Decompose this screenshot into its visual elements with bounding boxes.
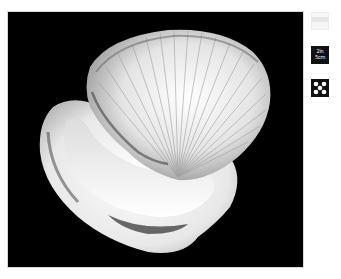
- product-image-viewer: 2in 5cm: [0, 0, 341, 279]
- white-background-icon: [312, 17, 328, 22]
- shell-image: [8, 12, 303, 267]
- main-product-image[interactable]: [8, 12, 303, 267]
- background-toggle-button[interactable]: [311, 12, 329, 30]
- scale-cm-label: 5cm: [311, 54, 329, 60]
- pattern-toggle-button[interactable]: [311, 79, 329, 97]
- dot-pattern-icon: [311, 79, 329, 97]
- scale-toggle-button[interactable]: 2in 5cm: [311, 46, 329, 64]
